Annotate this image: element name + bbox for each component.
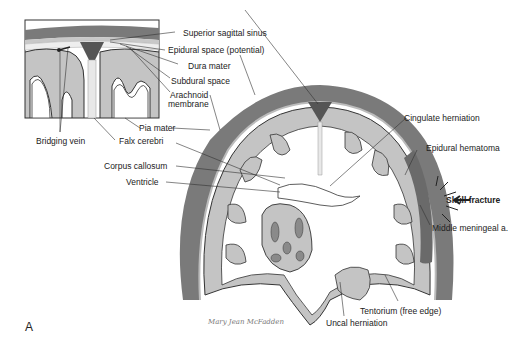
artist-signature: Mary Jean McFadden xyxy=(208,318,284,326)
label-bridging-vein: Bridging vein xyxy=(36,137,85,146)
label-ventricle: Ventricle xyxy=(126,178,159,187)
label-superior-sagittal-sinus: Superior sagittal sinus xyxy=(183,29,267,38)
label-corpus-callosum: Corpus callosum xyxy=(104,162,167,171)
label-pia-mater: Pia mater xyxy=(139,124,175,133)
label-arachnoid-2: membrane xyxy=(168,100,209,109)
label-uncal-herniation: Uncal herniation xyxy=(326,319,387,328)
label-subdural-space: Subdural space xyxy=(171,77,230,86)
label-dura-mater: Dura mater xyxy=(188,62,231,71)
panel-label: A xyxy=(25,320,33,334)
label-epidural-hematoma: Epidural hematoma xyxy=(426,144,500,153)
meninges-inset xyxy=(25,20,159,118)
label-epidural-space: Epidural space (potential) xyxy=(168,46,264,55)
label-tentorium: Tentorium (free edge) xyxy=(360,307,441,316)
label-falx-cerebri: Falx cerebri xyxy=(119,137,163,146)
label-middle-meningeal: Middle meningeal a. xyxy=(432,224,508,233)
label-cingulate-herniation: Cingulate herniation xyxy=(404,114,480,123)
label-skull-fracture: Skull fracture xyxy=(446,196,500,205)
